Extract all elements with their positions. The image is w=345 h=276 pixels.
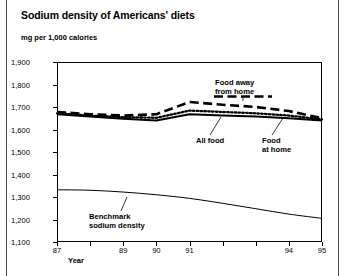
x-tick-mark [223, 242, 224, 246]
right-border-rule [338, 0, 339, 276]
y-tick-label: 1,900 [11, 58, 30, 67]
y-tick-mark [53, 85, 57, 86]
figure-container: Sodium density of Americans' diets mg pe… [0, 0, 345, 276]
series-label-line-2: sodium density [89, 222, 145, 231]
x-tick-mark [256, 242, 257, 246]
y-tick-label: 1,800 [11, 80, 30, 89]
series-label-all-food: All food [196, 137, 224, 146]
y-axis-label: mg per 1,000 calories [21, 33, 97, 42]
y-tick-mark [53, 220, 57, 221]
y-tick-label: 1,300 [11, 193, 30, 202]
x-tick-label: 94 [285, 246, 293, 255]
y-tick-mark [53, 62, 57, 63]
y-tick-mark [53, 175, 57, 176]
x-tick-label: 91 [185, 246, 193, 255]
y-tick-label: 1,600 [11, 125, 30, 134]
y-tick-mark [53, 197, 57, 198]
x-tick-label: 87 [53, 246, 61, 255]
y-tick-label: 1,400 [11, 170, 30, 179]
y-tick-label: 1,200 [11, 215, 30, 224]
y-tick-label: 1,100 [11, 238, 30, 247]
y-tick-mark [53, 152, 57, 153]
x-tick-label: 89 [119, 246, 127, 255]
series-label-food-at-home: Food at home [262, 137, 291, 154]
x-tick-label: 95 [318, 246, 326, 255]
y-tick-label: 1,700 [11, 103, 30, 112]
chart-title: Sodium density of Americans' diets [21, 9, 195, 21]
x-tick-mark [90, 242, 91, 246]
series-label-food-away-from-home: Food away from home [215, 79, 254, 96]
x-axis-label: Year [68, 256, 84, 265]
series-label-line-2: at home [262, 146, 291, 155]
series-label-line-1: All food [196, 137, 224, 146]
series-label-benchmark-sodium-density: Benchmark sodium density [89, 213, 145, 230]
y-tick-mark [53, 107, 57, 108]
y-tick-mark [53, 130, 57, 131]
series-label-line-2: from home [215, 88, 254, 97]
y-tick-label: 1,500 [11, 148, 30, 157]
x-tick-label: 90 [152, 246, 160, 255]
left-border-rule [6, 0, 7, 276]
